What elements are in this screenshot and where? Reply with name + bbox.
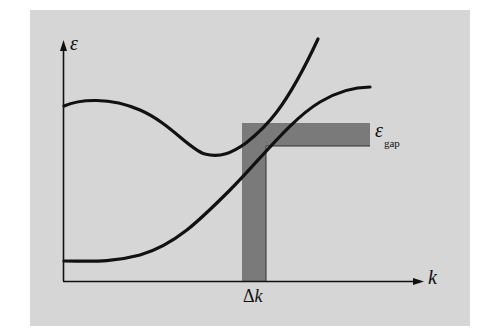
energy-gap-label: εgap: [375, 120, 399, 140]
y-axis-arrow-icon: [60, 40, 67, 51]
x-axis-arrow-icon: [413, 278, 424, 285]
delta-k-variable: k: [255, 286, 263, 306]
energy-gap-symbol: ε: [375, 119, 383, 141]
energy-gap-subscript: gap: [384, 137, 400, 149]
x-axis-label: k: [428, 267, 437, 287]
diagram-figure: ε k εgap Δk: [0, 0, 493, 336]
delta-symbol: Δ: [243, 286, 255, 306]
delta-k-label: Δk: [243, 287, 263, 305]
y-axis-label: ε: [70, 33, 78, 53]
lower-band-curve: [64, 87, 370, 261]
delta-k-band: [242, 123, 266, 281]
